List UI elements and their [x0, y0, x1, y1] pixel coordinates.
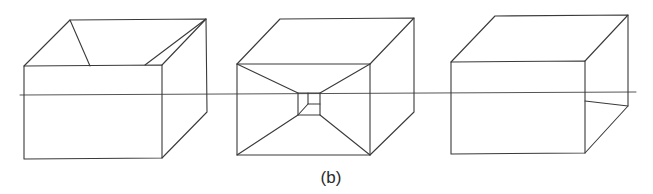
box2-top-outline [237, 18, 414, 64]
box1-inner-left-edge [70, 20, 90, 66]
box1-right-side [162, 19, 207, 158]
open-top-box [24, 19, 207, 159]
box2-tunnel-edge-tl [237, 64, 298, 93]
solid-box [451, 15, 628, 154]
figure-caption: (b) [310, 168, 352, 188]
box2-tunnel-edge-br [320, 115, 370, 155]
box2-right-side [370, 18, 414, 155]
tunnel-box [237, 18, 414, 155]
box3-front-face [451, 61, 585, 154]
box1-inner-right-edge-a [145, 19, 206, 65]
box2-tunnel-edge-tr [320, 64, 370, 93]
horizon-line [20, 92, 636, 95]
perspective-boxes-diagram [0, 0, 653, 194]
box1-front-face [24, 65, 162, 159]
box2-inner-diagonal [298, 104, 308, 115]
box2-inner-small-square [308, 93, 320, 104]
box1-top-outline [24, 19, 206, 66]
box3-right-side [585, 15, 628, 153]
box2-tunnel-edge-bl [237, 115, 298, 155]
box3-top-outline [451, 15, 628, 62]
box3-inner-edge [585, 101, 628, 106]
